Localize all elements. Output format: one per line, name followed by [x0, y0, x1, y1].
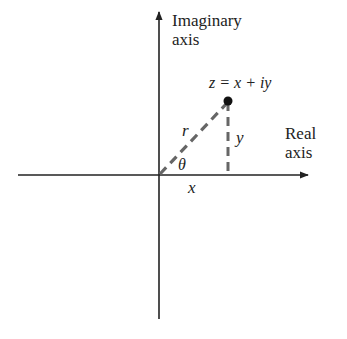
angle-theta-label: θ	[178, 156, 186, 173]
x-label: x	[187, 178, 196, 197]
real-axis-label-line1: Real	[285, 124, 316, 143]
modulus-r-dashed-line	[160, 102, 228, 174]
y-label: y	[234, 128, 244, 147]
point-z-dot	[224, 97, 233, 106]
imaginary-axis-label-line2: axis	[172, 30, 199, 49]
modulus-r-label: r	[182, 121, 189, 140]
point-z-label: z = x + iy	[208, 74, 272, 92]
imaginary-axis-label-line1: Imaginary	[172, 11, 242, 30]
complex-plane-diagram: Imaginary axis z = x + iy Real axis r y …	[0, 0, 347, 339]
real-axis-label-line2: axis	[285, 143, 312, 162]
